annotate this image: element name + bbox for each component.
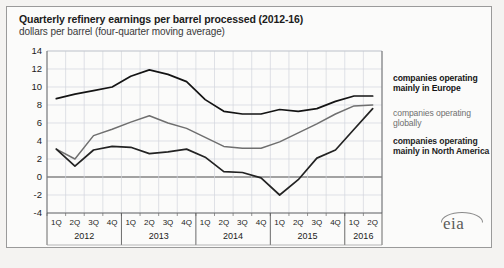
y-tick-label: 0: [37, 171, 42, 182]
quarter-tick-label: 4Q: [330, 218, 341, 227]
quarter-tick-label: 3Q: [312, 218, 323, 227]
quarter-tick-label: 2Q: [367, 218, 378, 227]
bottom-caption-sliver: [0, 256, 504, 268]
y-tick-label: 4: [37, 135, 42, 146]
year-label: 2012: [74, 231, 94, 241]
year-label: 2013: [149, 231, 169, 241]
quarter-tick-label: 3Q: [237, 218, 248, 227]
gridlines: [47, 51, 382, 213]
y-tick-label: -4: [34, 207, 42, 218]
y-tick-label: 12: [31, 63, 42, 74]
quarter-tick-label: 1Q: [125, 218, 136, 227]
quarter-tick-label: 4Q: [107, 218, 118, 227]
legend-item-europe: companies operating mainly in Europe: [393, 73, 491, 93]
quarter-tick-label: 2Q: [144, 218, 155, 227]
quarter-tick-label: 2Q: [293, 218, 304, 227]
year-label: 2016: [353, 231, 373, 241]
legend-item-global: companies operating globally: [393, 108, 491, 128]
year-label: 2014: [223, 231, 243, 241]
y-tick-label: 2: [37, 153, 42, 164]
chart-frame: Quarterly refinery earnings per barrel p…: [6, 6, 492, 248]
y-tick-label: 14: [31, 45, 42, 56]
y-tick-label: 8: [37, 99, 42, 110]
quarter-tick-label: 2Q: [70, 218, 81, 227]
quarter-tick-label: 3Q: [88, 218, 99, 227]
year-labels: 20122013201420152016: [74, 231, 373, 241]
year-label: 2015: [298, 231, 318, 241]
y-tick-label: 10: [31, 81, 42, 92]
y-axis-labels: 14121086420-2-4: [31, 45, 42, 218]
quarter-tick-label: 1Q: [274, 218, 285, 227]
quarter-tick-label: 3Q: [163, 218, 174, 227]
y-tick-label: -2: [34, 189, 42, 200]
quarter-tick-label: 4Q: [256, 218, 267, 227]
y-tick-label: 6: [37, 117, 42, 128]
eia-logo-text: eia: [443, 214, 464, 234]
quarter-tick-label: 2Q: [218, 218, 229, 227]
quarter-tick-label: 1Q: [349, 218, 360, 227]
quarter-tick-label: 4Q: [181, 218, 192, 227]
eia-logo: eia: [439, 211, 485, 237]
quarter-tick-label: 1Q: [51, 218, 62, 227]
quarter-labels: 1Q2Q3Q4Q1Q2Q3Q4Q1Q2Q3Q4Q1Q2Q3Q4Q1Q2Q: [51, 218, 378, 227]
quarter-tick-label: 1Q: [200, 218, 211, 227]
legend-item-north-america: companies operating mainly in North Amer…: [393, 136, 491, 156]
